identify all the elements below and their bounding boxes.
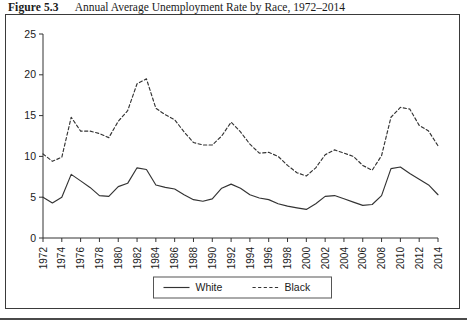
x-tick-label: 1996 (263, 247, 274, 270)
x-tick-label: 2000 (301, 247, 312, 270)
chart-panel: 0510152025 19721974197619781980198219841… (5, 14, 460, 309)
x-tick-label: 2006 (357, 247, 368, 270)
x-tick-label: 2008 (376, 247, 387, 270)
x-tick-label: 1984 (150, 247, 161, 270)
x-tick-label: 2014 (433, 247, 444, 270)
x-tick-label: 1982 (132, 247, 143, 270)
x-tick-label: 1994 (245, 247, 256, 270)
chart-legend: WhiteBlack (154, 277, 332, 298)
x-tick-label: 1972 (38, 247, 49, 270)
y-axis: 0510152025 (24, 28, 43, 244)
x-tick-label: 2010 (395, 247, 406, 270)
x-tick-label: 1992 (226, 247, 237, 270)
legend-label-white: White (196, 281, 223, 293)
page-bottom-rule (0, 318, 467, 320)
x-tick-label: 1976 (75, 247, 86, 270)
x-tick-label: 1980 (113, 247, 124, 270)
x-axis: 1972197419761978198019821984198619881990… (38, 238, 444, 269)
unemployment-line-chart: 0510152025 19721974197619781980198219841… (6, 15, 459, 308)
y-tick-label: 25 (24, 28, 36, 40)
figure-title: Annual Average Unemployment Rate by Race… (75, 1, 345, 13)
x-tick-label: 1998 (282, 247, 293, 270)
x-tick-label: 1978 (94, 247, 105, 270)
x-tick-label: 2004 (339, 247, 350, 270)
legend-label-black: Black (285, 281, 311, 293)
y-tick-label: 20 (24, 68, 36, 80)
x-tick-label: 1988 (188, 247, 199, 270)
series-line-white (43, 167, 438, 209)
x-tick-label: 2002 (320, 247, 331, 270)
x-tick-label: 1974 (56, 247, 67, 270)
x-tick-label: 1990 (207, 247, 218, 270)
series-line-black (43, 79, 438, 176)
y-tick-label: 5 (30, 191, 36, 203)
x-tick-label: 1986 (169, 247, 180, 270)
y-tick-label: 15 (24, 109, 36, 121)
figure-number: Figure 5.3 (8, 1, 59, 13)
x-tick-label: 2012 (414, 247, 425, 270)
y-tick-label: 10 (24, 150, 36, 162)
y-tick-label: 0 (30, 232, 36, 244)
series-lines (43, 79, 438, 210)
